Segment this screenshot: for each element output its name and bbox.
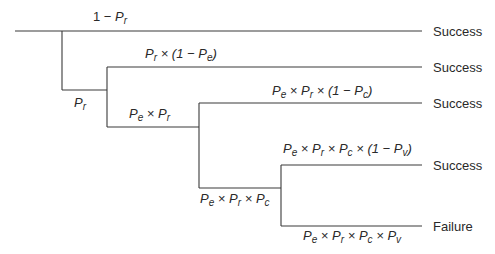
label-pe-times-pr: Pe × Pr: [129, 106, 171, 123]
label-pe-pr-pc: Pe × Pr × Pc: [200, 191, 270, 208]
outcome-3: Success: [433, 96, 483, 111]
outcome-4: Success: [433, 158, 483, 173]
label-pe-pr-pc-pv: Pe × Pr × Pc × Pv: [303, 228, 402, 245]
label-1-minus-pr: 1 − Pr: [93, 9, 128, 26]
label-pr-times-1-minus-pe: Pr × (1 − Pe): [145, 46, 217, 63]
outcome-1: Success: [433, 24, 483, 39]
label-pe-pr-1-minus-pc: Pe × Pr × (1 − Pc): [272, 83, 372, 100]
event-tree-diagram: Success Success Success Success Failure …: [0, 0, 495, 254]
outcome-2: Success: [433, 60, 483, 75]
label-pr: Pr: [74, 95, 87, 112]
outcome-5: Failure: [433, 219, 473, 234]
label-pe-pr-pc-1-minus-pv: Pe × Pr × Pc × (1 − Pv): [283, 141, 412, 158]
